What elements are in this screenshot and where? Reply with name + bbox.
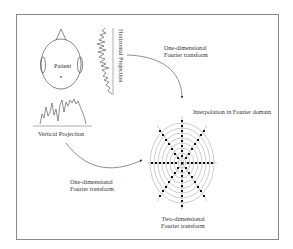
- vertical-projection-plot: [33, 99, 92, 126]
- interpolation-label: Interpolation in Fourier domain: [193, 108, 271, 115]
- fourier-1d-top-label: One-dimensional Fourier transform: [164, 44, 208, 58]
- fourier-1d-bottom-label: One-dimensional Fourier transform: [70, 178, 114, 192]
- horizontal-projection-label: Horizontal Projection: [118, 29, 125, 82]
- vertical-projection-label: Vertical Projection: [38, 130, 84, 137]
- fourier-2d-label: Two-dimensional Fourier transform: [160, 215, 206, 229]
- patient-head-icon: [41, 29, 83, 89]
- arrow-bottom-fourier: [66, 143, 142, 168]
- arrow-top-fourier: [127, 55, 182, 98]
- horizontal-projection-plot: [97, 28, 113, 95]
- patient-label: Patient: [54, 62, 71, 69]
- diagram-canvas: [0, 0, 293, 249]
